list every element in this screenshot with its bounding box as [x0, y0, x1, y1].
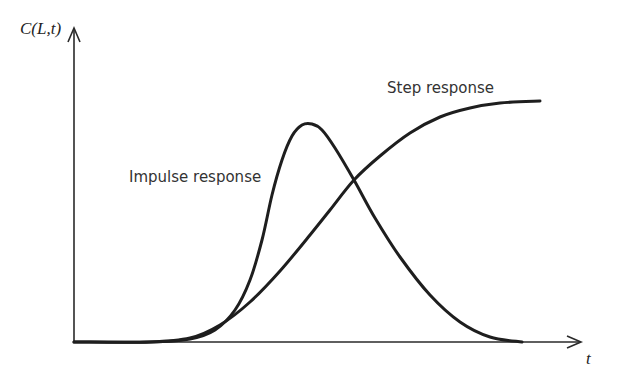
- y-axis-label: C(L,t): [20, 19, 61, 38]
- x-axis-label: t: [586, 349, 592, 368]
- impulse-response-curve: [74, 123, 522, 342]
- breakthrough-curve-chart: C(L,t) t Impulse response Step response: [0, 0, 622, 384]
- step-response-curve: [74, 101, 540, 342]
- step-response-label: Step response: [387, 79, 494, 97]
- impulse-response-label: Impulse response: [129, 168, 261, 186]
